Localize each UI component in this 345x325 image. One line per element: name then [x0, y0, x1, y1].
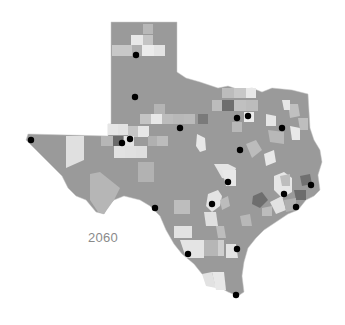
- year-label: 2060: [88, 230, 118, 245]
- texas-county-map: [0, 0, 345, 325]
